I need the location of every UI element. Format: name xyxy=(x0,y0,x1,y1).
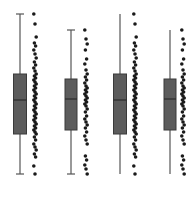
data-point xyxy=(32,12,36,16)
data-point xyxy=(85,72,89,76)
data-point xyxy=(85,42,89,46)
data-point xyxy=(134,138,138,142)
data-point xyxy=(182,158,186,162)
data-point xyxy=(180,62,184,66)
data-point xyxy=(181,154,185,158)
data-point xyxy=(182,123,186,127)
data-point xyxy=(83,28,87,32)
data-point xyxy=(85,107,89,111)
data-point xyxy=(84,68,88,72)
data-point xyxy=(84,110,88,114)
data-point xyxy=(181,37,185,41)
data-point xyxy=(85,172,89,176)
data-point xyxy=(180,134,184,138)
data-point xyxy=(34,155,38,159)
data-point xyxy=(83,62,87,66)
data-point xyxy=(85,78,89,82)
data-point xyxy=(134,56,138,60)
data-point xyxy=(34,148,38,152)
data-point xyxy=(32,48,36,52)
data-point xyxy=(32,164,36,168)
box-4 xyxy=(164,79,176,130)
data-point xyxy=(84,37,88,41)
data-point xyxy=(34,138,38,142)
data-point xyxy=(132,164,136,168)
data-point xyxy=(182,142,186,146)
data-point xyxy=(85,130,89,134)
data-point xyxy=(83,163,87,167)
data-point xyxy=(181,126,185,130)
data-point xyxy=(182,114,186,118)
data-point xyxy=(84,167,88,171)
data-point xyxy=(33,22,37,26)
data-point xyxy=(84,48,88,52)
data-point xyxy=(34,56,38,60)
data-point xyxy=(181,138,185,142)
data-point xyxy=(134,132,138,136)
data-point xyxy=(182,172,186,176)
data-point xyxy=(181,167,185,171)
data-point xyxy=(133,22,137,26)
data-point xyxy=(181,68,185,72)
data-point xyxy=(182,57,186,61)
data-point xyxy=(180,163,184,167)
data-point xyxy=(134,44,138,48)
box-2 xyxy=(65,79,77,130)
box-plot-chart xyxy=(0,0,195,197)
data-point xyxy=(181,48,185,52)
data-point xyxy=(33,52,37,56)
data-point xyxy=(84,126,88,130)
data-point xyxy=(84,154,88,158)
data-point xyxy=(134,155,138,159)
data-point xyxy=(182,72,186,76)
data-point xyxy=(85,142,89,146)
data-point xyxy=(34,35,38,39)
data-point xyxy=(182,78,186,82)
data-point xyxy=(133,52,137,56)
data-point xyxy=(132,12,136,16)
data-point xyxy=(34,44,38,48)
data-point xyxy=(182,42,186,46)
data-point xyxy=(181,110,185,114)
data-point xyxy=(134,63,138,67)
data-point xyxy=(182,130,186,134)
data-point xyxy=(182,107,186,111)
box-1 xyxy=(14,74,27,134)
data-point xyxy=(134,35,138,39)
data-point xyxy=(84,138,88,142)
box-3 xyxy=(114,74,127,134)
data-point xyxy=(85,123,89,127)
data-point xyxy=(34,63,38,67)
data-point xyxy=(83,134,87,138)
data-point xyxy=(180,28,184,32)
data-point xyxy=(34,132,38,136)
data-point xyxy=(85,158,89,162)
data-point xyxy=(85,57,89,61)
data-point xyxy=(33,172,37,176)
data-point xyxy=(132,48,136,52)
data-point xyxy=(133,172,137,176)
data-point xyxy=(134,148,138,152)
data-point xyxy=(85,114,89,118)
